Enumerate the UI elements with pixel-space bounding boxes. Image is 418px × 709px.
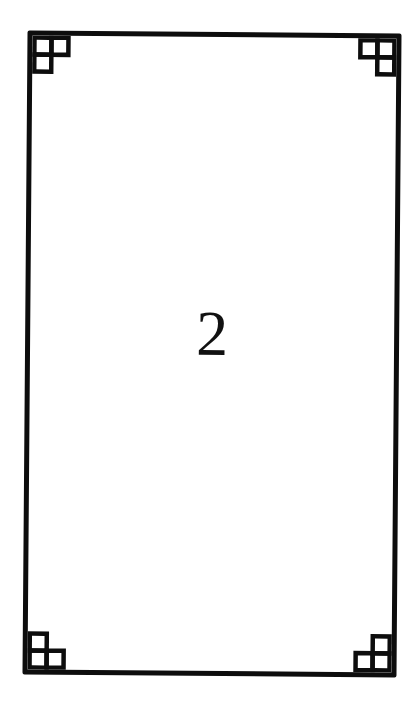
corner-ornament-top-right-icon bbox=[352, 38, 396, 82]
corner-ornament-bottom-left-icon bbox=[28, 626, 72, 670]
corner-ornament-bottom-right-icon bbox=[348, 628, 392, 672]
corner-ornament-top-left-icon bbox=[32, 36, 76, 80]
card-number: 2 bbox=[30, 298, 395, 371]
page: 2 bbox=[0, 0, 418, 709]
playing-card: 2 bbox=[22, 31, 401, 678]
